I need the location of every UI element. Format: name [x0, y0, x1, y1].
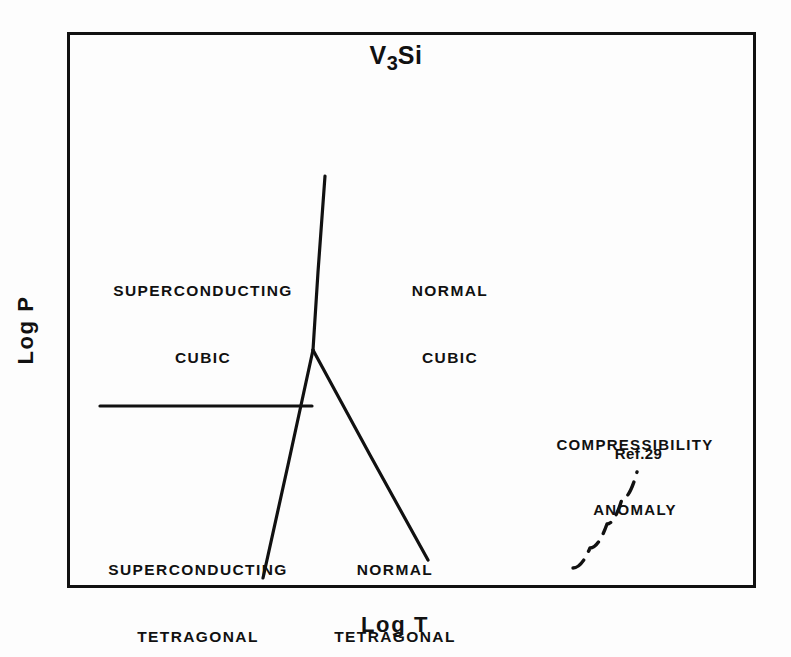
region-label-line1: SUPERCONDUCTING: [58, 280, 348, 302]
y-axis-label: Log P: [10, 260, 42, 400]
x-axis-label: Log T: [305, 609, 485, 641]
title-compound-tail: Si: [398, 41, 423, 69]
annotation-line2: ANOMALY: [520, 499, 750, 521]
region-label-normal-cubic: NORMAL CUBIC: [350, 235, 550, 415]
figure-title: V3Si: [296, 37, 496, 78]
title-subscript: 3: [387, 52, 398, 74]
region-label-line1: NORMAL: [300, 559, 490, 581]
region-label-line2: CUBIC: [58, 347, 348, 369]
annotation-reference: Ref.29: [576, 443, 701, 465]
region-label-line1: NORMAL: [350, 280, 550, 302]
region-label-superconducting-cubic: SUPERCONDUCTING CUBIC: [58, 235, 348, 415]
annotation-compressibility-anomaly: COMPRESSIBILITY ANOMALY: [520, 390, 750, 564]
phase-diagram-figure: V3Si SUPERCONDUCTING CUBIC NORMAL CUBIC …: [0, 0, 791, 657]
title-element: V: [370, 41, 387, 69]
region-label-line2: CUBIC: [350, 347, 550, 369]
